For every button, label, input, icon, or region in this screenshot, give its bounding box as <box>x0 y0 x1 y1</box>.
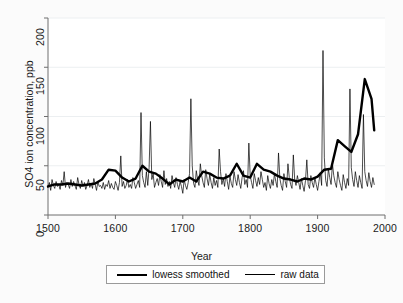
x-axis-tick-label: 1700 <box>158 222 208 234</box>
y-axis-tick-label: 150 <box>34 66 46 106</box>
x-axis-title: Year <box>0 250 403 262</box>
chart-figure: SO4 ion concentration, ppb Year 05010015… <box>0 0 403 303</box>
x-axis-tick-label: 1600 <box>90 222 140 234</box>
legend-item-lowess-smoothed: lowess smoothed <box>112 269 229 280</box>
legend-label-raw-data: raw data <box>280 269 318 280</box>
y-axis-tick-label: 50 <box>34 165 46 205</box>
legend-label-lowess-smoothed: lowess smoothed <box>152 269 229 280</box>
y-axis-tick-label: 0 <box>34 214 46 254</box>
thin-line-swatch <box>245 274 275 275</box>
y-axis-tick-label: 100 <box>34 116 46 156</box>
x-axis-tick-label: 2000 <box>360 222 403 234</box>
y-axis-tick-label: 200 <box>34 17 46 57</box>
legend-item-raw-data: raw data <box>240 269 318 280</box>
x-axis-ticks <box>48 215 385 219</box>
x-axis-tick-label: 1900 <box>293 222 343 234</box>
chart-legend: lowess smoothed raw data <box>106 265 325 284</box>
x-axis-tick-label: 1800 <box>225 222 275 234</box>
thick-line-swatch <box>117 274 147 276</box>
x-axis-tick-label: 1500 <box>23 222 73 234</box>
